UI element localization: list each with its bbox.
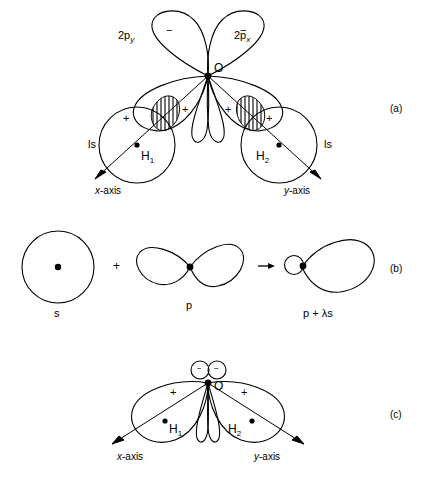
p-orbital-label: p <box>186 300 192 311</box>
hybrid-inner-lobe-left-c <box>196 383 208 442</box>
panel-c-graphics <box>112 361 304 444</box>
plus-sign-a-inner-right: + <box>225 104 231 115</box>
reaction-arrow-head <box>268 263 275 269</box>
hydrogen2-1s-label: ls <box>324 139 332 150</box>
hydrogen1-1s-label: ls <box>88 139 96 150</box>
plus-sign-c-right: + <box>241 387 247 398</box>
minus-sign-c-left: − <box>197 365 202 373</box>
hybrid-orbital-nucleus <box>300 263 307 270</box>
minus-sign-a-left: − <box>166 25 172 36</box>
x-axis-arrow-c <box>112 383 208 444</box>
hybrid-orbital-large-lobe <box>302 240 374 292</box>
oxygen-lower-inner-lobe-right <box>207 76 224 142</box>
hydrogen2-nucleus-c <box>249 418 254 423</box>
panel-tag-b: (b) <box>390 264 402 274</box>
plus-sign-a-outer-right: + <box>266 113 272 124</box>
plus-operator-b: + <box>113 260 120 272</box>
plus-sign-a-outer-left: + <box>123 113 129 124</box>
oxygen-label-a: O <box>214 62 223 74</box>
p-orbital-nucleus <box>187 264 194 271</box>
plus-sign-a-inner-left: + <box>182 104 188 115</box>
oxygen-label-c: O <box>214 380 223 392</box>
x-axis-label-c: x-axis <box>117 452 143 462</box>
y-axis-label-a: y-axis <box>284 186 310 196</box>
orbital-label-2py: 2py <box>118 30 134 44</box>
x-axis-arrowhead-a <box>95 170 106 179</box>
y-axis-label-c: y-axis <box>254 452 280 462</box>
hydrogen2-label-a: H2 <box>256 150 269 165</box>
minus-sign-c-right: − <box>214 365 219 373</box>
panel-tag-c: (c) <box>390 410 402 420</box>
oxygen-lower-inner-lobe-left <box>192 76 209 142</box>
plus-sign-c-left: + <box>170 387 176 398</box>
s-orbital-nucleus <box>55 264 61 270</box>
p-orbital-left-lobe <box>137 248 190 285</box>
y-axis-arrowhead-a <box>310 170 321 179</box>
hydrogen1-label-a: H1 <box>141 150 154 165</box>
minus-sign-a-right: − <box>240 25 246 36</box>
s-orbital-label: s <box>54 308 60 319</box>
x-axis-label-a: x-axis <box>95 186 121 196</box>
hydrogen2-nucleus-a <box>276 142 281 147</box>
hydrogen1-nucleus-a <box>134 142 139 147</box>
oxygen-nucleus-c <box>205 380 212 387</box>
hydrogen2-label-c: H2 <box>228 423 241 438</box>
panel-tag-a: (a) <box>390 104 402 114</box>
hydrogen1-nucleus-c <box>162 418 167 423</box>
panel-b-graphics <box>22 231 374 303</box>
oxygen-2py-upper-lobe <box>152 11 209 76</box>
hybrid-orbital-label: p + λs <box>303 308 333 319</box>
p-orbital-right-lobe <box>190 244 244 286</box>
hydrogen1-label-c: H1 <box>169 423 182 438</box>
oxygen-nucleus-a <box>205 73 212 80</box>
